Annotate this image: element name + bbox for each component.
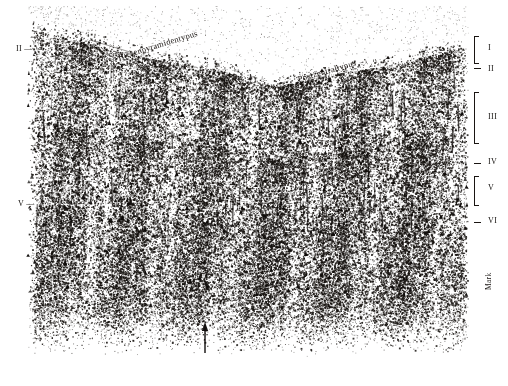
micrograph-figure: Riesenpyramidentypus Postzentraltypus i1…	[0, 0, 508, 386]
layer-tick-vi	[474, 222, 481, 223]
layer-bracket-iii	[474, 92, 479, 144]
layer-bracket-i	[474, 36, 479, 64]
layer-tick-iv	[474, 163, 481, 164]
cortex-micrograph-canvas	[0, 0, 508, 386]
layer-bracket-v	[474, 176, 479, 206]
layer-tick-ii	[474, 68, 481, 69]
